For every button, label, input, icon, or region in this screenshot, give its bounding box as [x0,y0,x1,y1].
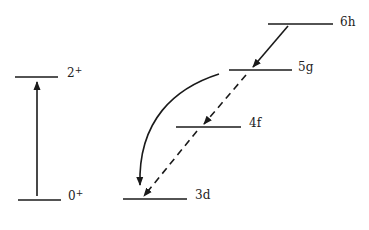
transition-5g-4f [204,75,246,124]
energy-level-diagram: 2+ 0+ 6h 5g 4f 3d [0,0,369,230]
label-0plus-base: 0 [68,189,76,203]
label-5g: 5g [298,61,313,73]
diagram-canvas [0,0,369,230]
label-2plus-base: 2 [67,66,75,80]
transition-4f-3d [144,131,197,196]
label-0plus-sup: + [76,188,84,198]
label-2plus-sup: + [75,65,83,75]
label-0plus: 0+ [68,189,83,202]
label-4f: 4f [249,117,261,129]
label-6h: 6h [340,16,355,28]
label-2plus: 2+ [67,66,82,79]
transition-6h-5g [253,26,288,67]
transition-5g-3d-curved [140,74,219,185]
label-3d: 3d [195,189,210,201]
